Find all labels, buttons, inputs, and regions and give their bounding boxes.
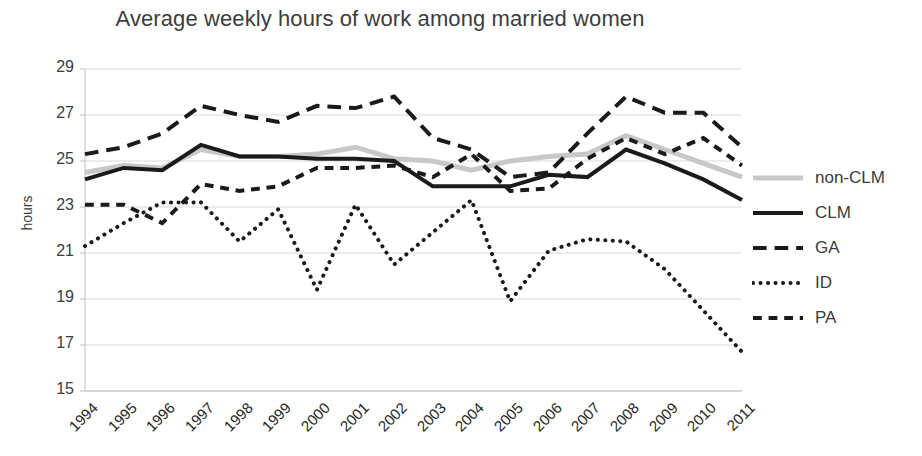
series-line-id [85, 200, 742, 352]
legend-item-pa[interactable]: PA [752, 300, 922, 335]
legend-label: ID [815, 273, 832, 293]
y-axis-tick-label: 29 [34, 58, 74, 76]
y-axis-tick-label: 17 [34, 334, 74, 352]
y-axis-tick-label: 19 [34, 288, 74, 306]
chart-legend: non-CLMCLMGAIDPA [752, 160, 922, 335]
data-series-layer [85, 97, 742, 352]
y-axis-tick-label: 15 [34, 380, 74, 398]
legend-swatch [752, 171, 804, 185]
legend-item-clm[interactable]: CLM [752, 195, 922, 230]
y-axis-tick-label: 23 [34, 196, 74, 214]
chart-container: Average weekly hours of work among marri… [0, 0, 922, 456]
y-axis-title: hours [19, 168, 35, 258]
chart-title: Average weekly hours of work among marri… [0, 6, 760, 32]
y-axis-tick-label: 27 [34, 104, 74, 122]
legend-item-non-clm[interactable]: non-CLM [752, 160, 922, 195]
series-line-clm [85, 145, 742, 200]
legend-swatch [752, 311, 804, 325]
legend-label: PA [815, 308, 836, 328]
series-line-ga [85, 97, 742, 178]
series-line-pa [85, 138, 742, 223]
y-axis-tick-label: 25 [34, 150, 74, 168]
y-axis-tick-label: 21 [34, 242, 74, 260]
legend-label: GA [815, 238, 840, 258]
legend-item-ga[interactable]: GA [752, 230, 922, 265]
legend-item-id[interactable]: ID [752, 265, 922, 300]
legend-label: CLM [815, 203, 851, 223]
legend-swatch [752, 241, 804, 255]
legend-swatch [752, 206, 804, 220]
legend-swatch [752, 276, 804, 290]
axis-ticks [80, 69, 85, 391]
legend-label: non-CLM [815, 168, 885, 188]
